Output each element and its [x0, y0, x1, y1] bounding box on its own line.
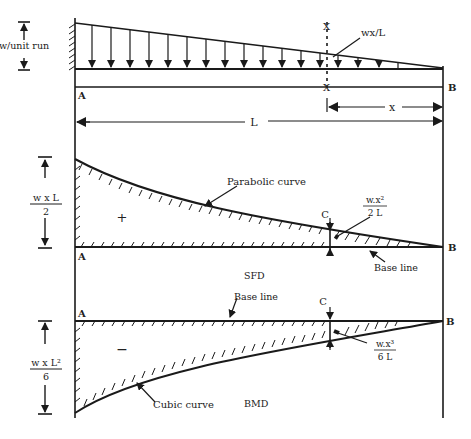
- sfd-curve-leader: [205, 186, 237, 206]
- sfd-section-num: w.x²: [366, 195, 385, 205]
- sfd-title: SFD: [244, 270, 265, 281]
- bmd-baseline-label: Base line: [234, 291, 278, 302]
- sfd-sign: +: [117, 210, 128, 225]
- sfd-max-den: 2: [43, 206, 49, 217]
- section-x-top: X: [323, 21, 331, 32]
- bmd-max-den: 6: [43, 371, 49, 382]
- bmd-section-den: 6 L: [378, 352, 393, 362]
- section-load-label: wx/L: [361, 27, 386, 38]
- bmd-end-b: B: [446, 316, 454, 327]
- bmd-max-num: w x L²: [31, 357, 61, 368]
- beam-diagram: w/unit run wx/L X X A B L x w x L 2 Para…: [0, 0, 471, 439]
- sfd-end-a: A: [77, 251, 86, 262]
- leader-wx-L: [333, 38, 360, 57]
- section-x-bottom: X: [323, 82, 331, 93]
- support-a-label: A: [77, 90, 86, 101]
- bmd-curve-label: Cubic curve: [153, 399, 214, 410]
- support-b-label: B: [448, 82, 456, 93]
- sfd-section-den: 2 L: [368, 208, 383, 218]
- bmd-sign: −: [116, 341, 128, 357]
- bmd-section-num: w.x³: [376, 339, 395, 349]
- sfd-max-num: w x L: [33, 192, 60, 203]
- bmd-section-c-label: C: [319, 296, 327, 307]
- bmd-title: BMD: [244, 398, 269, 409]
- wall-hatch: [69, 24, 75, 70]
- sfd-baseline-label: Base line: [374, 262, 418, 273]
- sfd-baseline-leader: [370, 251, 385, 262]
- sfd-end-b: B: [448, 242, 456, 253]
- distance-x-label: x: [389, 101, 396, 114]
- load-intensity-label: w/unit run: [0, 40, 49, 51]
- sfd-parabolic-curve: [75, 159, 443, 247]
- sfd-section-c-label: C: [321, 209, 329, 220]
- bmd-curve-hatch: [84, 322, 397, 406]
- bmd-end-a: A: [77, 308, 86, 319]
- span-L-label: L: [250, 116, 258, 129]
- sfd-curve-label: Parabolic curve: [227, 176, 306, 187]
